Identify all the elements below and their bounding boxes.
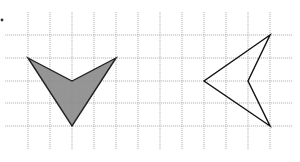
grid-figure bbox=[0, 0, 300, 162]
bullet-marker bbox=[1, 19, 4, 22]
